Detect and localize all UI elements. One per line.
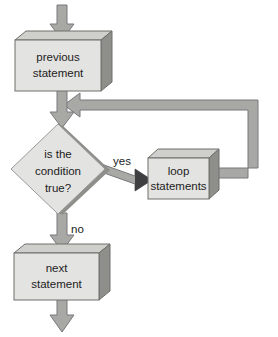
flowchart-diagram: previous statement is the condition true… [0, 0, 278, 337]
condition-yes-arrow [104, 165, 152, 191]
condition-line1: is the [44, 148, 72, 160]
exit-arrow [50, 299, 74, 332]
node-condition-diamond[interactable]: is the condition true? [11, 124, 110, 215]
previous-statement-line1: previous [36, 51, 80, 63]
loop-statements-line1: loop [168, 165, 190, 177]
edge-label-yes: yes [113, 155, 131, 167]
condition-line2: condition [35, 165, 81, 177]
previous-statement-line2: statement [33, 67, 84, 79]
next-statement-line2: statement [31, 278, 82, 290]
node-loop-statements[interactable]: loop statements [148, 149, 219, 199]
node-next-statement[interactable]: next statement [14, 244, 110, 300]
loop-statements-line2: statements [150, 180, 206, 192]
edge-label-no: no [71, 223, 84, 235]
next-statement-line1: next [46, 262, 69, 274]
node-previous-statement[interactable]: previous statement [15, 31, 112, 91]
condition-line3: true? [45, 182, 71, 194]
